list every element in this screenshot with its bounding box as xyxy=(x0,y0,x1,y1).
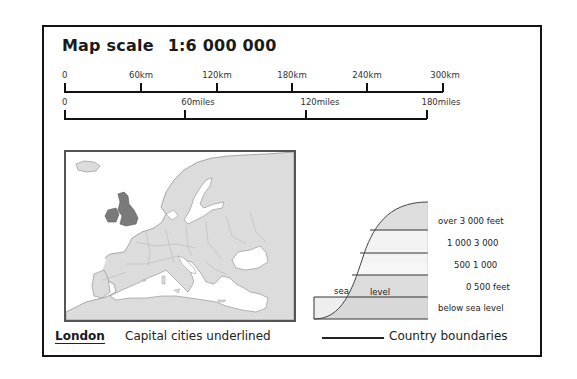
km-tick-300 xyxy=(442,83,444,92)
miles-bar-line xyxy=(64,118,427,120)
band-label-500-1000: 500 1 000 xyxy=(454,260,497,270)
title-label: Map scale xyxy=(62,36,154,55)
km-label-240: 240km xyxy=(352,70,381,80)
km-label-0: 0 xyxy=(62,70,67,80)
miles-label-120: 120miles xyxy=(301,97,340,107)
km-tick-0 xyxy=(64,83,66,92)
km-tick-180 xyxy=(291,83,293,92)
km-bar-line xyxy=(64,91,443,93)
km-label-300: 300km xyxy=(430,70,459,80)
sea-label: sea xyxy=(334,286,349,296)
band-label-1000-3000: 1 000 3 000 xyxy=(447,238,498,248)
miles-tick-0 xyxy=(64,110,66,119)
miles-label-0: 0 xyxy=(62,97,67,107)
europe-map-svg xyxy=(66,152,294,320)
capital-example-london: London xyxy=(55,329,105,344)
miles-label-180: 180miles xyxy=(422,97,461,107)
capital-cities-note: Capital cities underlined xyxy=(125,329,271,343)
band-label-over-3000: over 3 000 feet xyxy=(438,216,503,226)
km-tick-240 xyxy=(366,83,368,92)
level-label: level xyxy=(370,287,390,297)
km-label-180: 180km xyxy=(277,70,306,80)
band-label-0-500: 0 500 feet xyxy=(466,282,510,292)
band-label-below-sea: below sea level xyxy=(438,303,504,313)
km-tick-120 xyxy=(216,83,218,92)
miles-tick-180 xyxy=(426,110,428,119)
country-boundaries-note: Country boundaries xyxy=(389,329,508,343)
miles-tick-60 xyxy=(184,110,186,119)
scale-ratio: 1:6 000 000 xyxy=(168,36,277,55)
relief-legend: sea level xyxy=(312,200,428,322)
miles-tick-120 xyxy=(305,110,307,119)
km-label-60: 60km xyxy=(129,70,153,80)
map-scale-title: Map scale1:6 000 000 xyxy=(62,36,277,55)
relief-diagram-svg xyxy=(312,200,428,322)
europe-locator-map xyxy=(64,150,296,322)
km-label-120: 120km xyxy=(202,70,231,80)
km-tick-60 xyxy=(140,83,142,92)
country-boundary-line-icon xyxy=(322,337,384,339)
miles-label-60: 60miles xyxy=(181,97,214,107)
